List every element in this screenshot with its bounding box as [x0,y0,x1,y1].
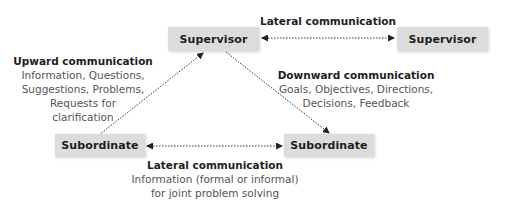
edge-text-line: Requests for [4,96,162,110]
node-label: Subordinate [61,139,138,152]
edge-heading: Lateral communication [260,14,396,28]
supervisor-left-node: Supervisor [168,27,259,51]
upward-label: Upward communication Information, Questi… [4,54,162,124]
edge-heading: Downward communication [270,68,442,82]
lateral-bottom-label: Lateral communication Information (forma… [120,158,310,200]
edge-heading: Upward communication [4,54,162,68]
edge-text-line: for joint problem solving [120,186,310,200]
subordinate-left-node: Subordinate [55,134,145,157]
node-label: Supervisor [180,33,248,46]
edge-text-line: Suggestions, Problems, [4,82,162,96]
edge-text-line: clarification [4,110,162,124]
edge-heading: Lateral communication [120,158,310,172]
edge-text-line: Decisions, Feedback [270,96,442,110]
edge-text-line: Information (formal or informal) [120,172,310,186]
edge-text-line: Information, Questions, [4,68,162,82]
node-label: Subordinate [290,139,367,152]
downward-label: Downward communication Goals, Objectives… [270,68,442,110]
node-label: Supervisor [409,33,477,46]
edge-text-line: Goals, Objectives, Directions, [270,82,442,96]
lateral-top-label: Lateral communication [260,14,396,28]
supervisor-right-node: Supervisor [397,27,488,51]
subordinate-right-node: Subordinate [284,134,374,157]
